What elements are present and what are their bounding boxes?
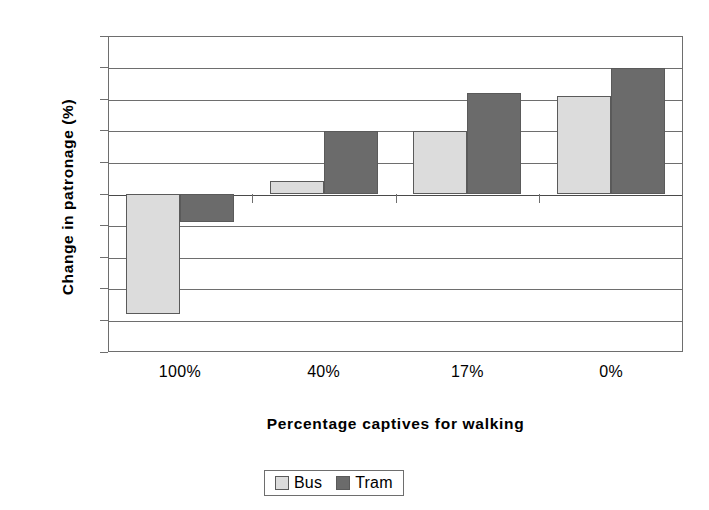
y-tick-mark [100,67,108,68]
bar-bus-40pct [270,181,324,194]
x-tick-mark [396,194,397,203]
x-tick-mark [252,194,253,203]
gridline [109,289,682,290]
y-tick-mark [100,288,108,289]
y-tick-mark [100,194,108,195]
legend-entry-tram: Tram [336,475,393,491]
chart-figure: Change in patronage (%) 543210-1-2-3-4-5… [0,0,709,510]
y-tick-mark [100,225,108,226]
x-category-label: 0% [551,363,671,381]
legend-swatch-bus-icon [275,476,289,490]
x-category-label: 40% [264,363,384,381]
bar-bus-0pct [557,96,611,194]
y-tick-mark [100,352,108,353]
y-tick-mark [100,162,108,163]
y-tick-mark [100,257,108,258]
gridline [109,226,682,227]
y-tick-mark [100,99,108,100]
bar-tram-17pct [467,93,521,194]
x-category-label: 100% [120,363,240,381]
gridline [109,321,682,322]
y-tick-mark [100,130,108,131]
x-category-label: 17% [407,363,527,381]
gridline [109,258,682,259]
legend: BusTram [264,470,404,496]
bar-tram-40pct [324,131,378,194]
legend-label: Tram [355,475,393,491]
x-axis-title: Percentage captives for walking [108,415,683,433]
y-axis-title: Change in patronage (%) [59,32,77,362]
legend-entry-bus: Bus [275,475,322,491]
y-tick-mark [100,36,108,37]
legend-swatch-tram-icon [336,476,350,490]
bar-tram-0pct [611,68,665,194]
x-tick-mark [539,194,540,203]
bar-bus-100pct [126,194,180,314]
gridline [109,68,682,69]
bar-bus-17pct [413,131,467,194]
legend-label: Bus [294,475,322,491]
y-tick-mark [100,320,108,321]
bar-tram-100pct [180,194,234,222]
